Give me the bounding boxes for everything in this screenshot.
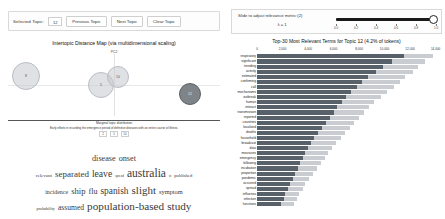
bar-topic [257, 177, 293, 181]
barchart-bars[interactable]: respiratorysignificanttrendingactivityes… [228, 54, 445, 214]
next-topic-button[interactable]: Next Topic [111, 16, 143, 27]
word-cloud-term[interactable]: study [167, 201, 191, 212]
bar-topic [257, 161, 300, 165]
bar-row[interactable]: functions [228, 202, 445, 207]
bar-topic [257, 70, 376, 74]
bar-topic [257, 59, 392, 63]
bar-label[interactable]: functions [243, 202, 256, 207]
bar-topic [257, 136, 314, 140]
word-cloud-term[interactable]: spread [115, 175, 124, 178]
clear-topic-button[interactable]: Clear Topic [147, 16, 181, 27]
word-cloud-term[interactable]: disease [92, 155, 116, 163]
x-tick-label: 14,000 [431, 47, 440, 51]
topic-bubble-label: 12 [188, 92, 192, 96]
word-cloud-row: diseaseonset [6, 148, 222, 164]
word-cloud-row: methodspreventionemployed [6, 213, 222, 219]
word-cloud-term[interactable]: published [174, 174, 192, 179]
bar-topic [257, 172, 295, 176]
word-cloud-term[interactable]: relevant [36, 173, 52, 178]
bar-topic [257, 121, 326, 125]
slider-tick-label: 0.0 [334, 26, 338, 30]
slider-tick-label: 1.0 [434, 26, 438, 30]
topic-bubble-label: 5 [100, 83, 102, 87]
intertopic-scatter[interactable]: 851012 [8, 54, 220, 116]
slider-tick-label: 0.2 [354, 26, 358, 30]
x-tick-label: 12,000 [405, 47, 414, 51]
bar-topic [257, 110, 334, 114]
topic-bubble-label: 10 [116, 75, 120, 79]
relevance-slider-label: Slide to adjust relevance metric:(2) [238, 13, 302, 18]
selected-topic-input[interactable]: 12 [48, 17, 62, 26]
bar-topic [257, 85, 357, 89]
bar-topic [257, 182, 290, 186]
word-cloud-term[interactable]: symptom [159, 189, 183, 196]
previous-topic-button[interactable]: Previous Topic [66, 16, 106, 27]
x-tick-label: 6,000 [330, 47, 338, 51]
bar-topic [257, 141, 311, 145]
lambda-value: λ = 1 [238, 22, 326, 27]
word-cloud-term[interactable]: incidence [45, 189, 68, 195]
word-cloud-row: incidenceshipfluspanishslightsymptom [6, 181, 222, 197]
topic-bubble-8[interactable]: 8 [12, 62, 40, 90]
word-cloud-term[interactable]: onset [119, 155, 136, 163]
relevance-slider-track[interactable] [336, 18, 436, 21]
word-cloud-term[interactable]: in [169, 175, 171, 178]
word-cloud-term[interactable]: probability [37, 207, 55, 211]
x-tick-label: 4,000 [304, 47, 312, 51]
word-cloud-term[interactable]: flu [89, 188, 98, 196]
bar-topic [257, 100, 342, 104]
legend-size-box: 10 [121, 131, 129, 137]
bar-topic [257, 151, 305, 155]
topic-bubble-12[interactable]: 12 [179, 83, 201, 105]
relevance-slider-handle[interactable] [429, 15, 438, 24]
word-cloud-term[interactable]: spanish [100, 187, 128, 197]
bar-topic [257, 131, 318, 135]
legend-size-box: 2 [99, 131, 107, 137]
topic-bubble-10[interactable]: 10 [107, 66, 129, 88]
word-cloud-row: probabilityassumedpopulation-basedstudy [6, 197, 222, 213]
word-cloud-term[interactable]: australia [127, 168, 166, 180]
word-cloud-term[interactable]: slight [132, 185, 156, 196]
word-cloud: diseaseonsetrelevantseparatedleavespread… [6, 148, 222, 214]
bar-topic [257, 146, 308, 150]
bar-topic [257, 95, 346, 99]
word-cloud-term[interactable]: population-based [87, 201, 164, 212]
relevance-slider-ticks: 0.00.20.40.60.81.0 [332, 24, 442, 33]
bar-topic [257, 90, 351, 94]
legend-caption: Early efforts in recording the emergence… [0, 126, 228, 130]
word-cloud-term[interactable]: leave [92, 169, 112, 179]
x-tick-label: 0 [256, 47, 258, 51]
bar-topic [257, 116, 330, 120]
bar-topic [257, 80, 362, 84]
legend-size-box: 5 [110, 131, 118, 137]
bar-topic [257, 156, 303, 160]
legend-size-boxes: 2510 [0, 131, 228, 137]
left-panel: Selected Topic: 12 Previous Topic Next T… [0, 0, 228, 219]
word-cloud-row: relevantseparatedleavespreadaustraliainp… [6, 164, 222, 180]
bar-topic [257, 202, 281, 206]
bar-topic [257, 187, 288, 191]
slider-tick-label: 0.4 [374, 26, 378, 30]
x-tick-label: 10,000 [380, 47, 389, 51]
bar-topic [257, 126, 322, 130]
bar-topic [257, 75, 368, 79]
slider-tick-label: 0.6 [394, 26, 398, 30]
topic-bubble-label: 8 [25, 74, 27, 78]
bar-topic [257, 54, 404, 58]
word-cloud-term[interactable]: assumed [58, 204, 84, 212]
bar-topic [257, 192, 285, 196]
topic-toolbar: Selected Topic: 12 Previous Topic Next T… [8, 11, 220, 31]
x-tick-label: 8,000 [355, 47, 363, 51]
word-cloud-term[interactable]: separated [55, 170, 89, 179]
word-cloud-term[interactable]: ship [71, 187, 85, 196]
selected-topic-label: Selected Topic: [13, 19, 44, 24]
intertopic-map-title: Intertopic Distance Map (via multidimens… [0, 40, 228, 46]
right-panel: Slide to adjust relevance metric:(2) λ =… [228, 0, 445, 219]
barchart-title: Top-30 Most Relevant Terms for Topic 12 … [228, 38, 445, 44]
relevance-slider-panel: Slide to adjust relevance metric:(2) λ =… [231, 9, 442, 34]
bar-topic [257, 197, 284, 201]
x-tick-label: 2,000 [279, 47, 287, 51]
slider-tick-label: 0.8 [414, 26, 418, 30]
bar-topic [257, 166, 298, 170]
legend-title: Marginal topic distribution [0, 121, 228, 125]
